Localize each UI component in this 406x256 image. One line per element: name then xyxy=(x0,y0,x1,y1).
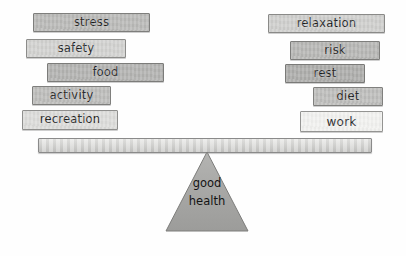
right-block-label: rest xyxy=(314,67,337,79)
left-block-label: food xyxy=(92,66,118,78)
left-block-food: food xyxy=(47,63,164,82)
right-block-diet: diet xyxy=(313,87,383,106)
right-block-relaxation: relaxation xyxy=(268,14,385,33)
fulcrum-triangle-shape xyxy=(165,151,249,233)
right-block-label: risk xyxy=(324,44,345,56)
right-block-work: work xyxy=(300,111,383,132)
left-block-recreation: recreation xyxy=(22,110,118,130)
balance-scale-diagram: stresssafetyfoodactivityrecreation relax… xyxy=(0,0,406,256)
left-block-label: stress xyxy=(74,16,109,28)
left-block-label: safety xyxy=(58,42,95,54)
right-block-rest: rest xyxy=(285,64,365,83)
left-block-safety: safety xyxy=(26,39,126,58)
right-block-label: diet xyxy=(337,90,360,102)
left-block-label: recreation xyxy=(40,114,101,126)
right-block-risk: risk xyxy=(290,41,380,60)
left-block-label: activity xyxy=(50,89,94,101)
left-block-stress: stress xyxy=(33,13,150,32)
left-block-activity: activity xyxy=(32,86,111,105)
right-block-label: work xyxy=(327,115,357,127)
right-block-label: relaxation xyxy=(297,17,357,29)
